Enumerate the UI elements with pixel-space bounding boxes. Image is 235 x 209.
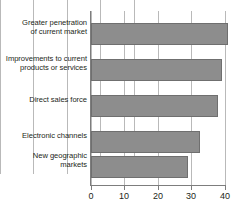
category-label-line: Electronic channels — [1, 131, 87, 140]
bar-electronic-channels — [91, 131, 200, 153]
category-label-direct-sales-force: Direct sales force — [1, 95, 87, 104]
tickmark-0 — [91, 186, 92, 190]
tickmark-30 — [191, 186, 192, 190]
category-label-improvements-products: Improvements to current products or serv… — [1, 54, 87, 73]
bar-improvements-products — [91, 59, 222, 81]
x-tick-label-20: 20 — [146, 191, 170, 201]
category-label-line: New geographic — [1, 151, 87, 160]
category-label-line: Direct sales force — [1, 95, 87, 104]
bar-new-geographic-markets — [91, 156, 188, 178]
bar-chart: 0 10 20 30 40 Greater penetration of cur… — [0, 0, 235, 209]
x-tick-label-0: 0 — [79, 191, 103, 201]
tickmark-40 — [225, 186, 226, 190]
category-label-line: Greater penetration — [1, 18, 87, 27]
bar-greater-penetration — [91, 23, 228, 45]
tickmark-10 — [124, 186, 125, 190]
x-tick-label-30: 30 — [179, 191, 203, 201]
category-label-line: of current market — [1, 27, 87, 36]
x-tick-label-10: 10 — [112, 191, 136, 201]
category-label-new-geographic-markets: New geographic markets — [1, 151, 87, 170]
category-label-line: Improvements to current — [1, 54, 87, 63]
x-tick-label-40: 40 — [213, 191, 235, 201]
category-label-line: products or services — [1, 63, 87, 72]
category-label-line: markets — [1, 160, 87, 169]
bar-direct-sales-force — [91, 95, 218, 117]
category-label-greater-penetration: Greater penetration of current market — [1, 18, 87, 37]
y-axis-line — [90, 11, 91, 186]
category-label-electronic-channels: Electronic channels — [1, 131, 87, 140]
plot-area — [91, 11, 225, 185]
tickmark-20 — [158, 186, 159, 190]
